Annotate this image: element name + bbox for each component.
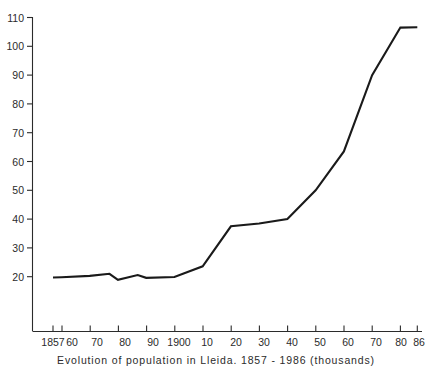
- chart-figure: 110 100 90 80 70 60 50 40 30 20: [0, 0, 430, 381]
- x-tick-label: 60: [66, 336, 78, 348]
- x-tick-label: 40: [286, 336, 298, 348]
- y-tick-label: 50: [12, 184, 24, 196]
- y-tick-label: 30: [12, 242, 24, 254]
- x-tick-label: 1900: [167, 336, 191, 348]
- y-tick-label: 70: [12, 127, 24, 139]
- x-tick-marks: [53, 326, 417, 332]
- y-tick-marks: [27, 18, 33, 277]
- y-tick-label: 40: [12, 213, 24, 225]
- y-tick-label: 100: [6, 40, 24, 52]
- x-tick-label: 1857: [41, 336, 65, 348]
- x-tick-label: 80: [119, 336, 131, 348]
- y-tick-label: 90: [12, 69, 24, 81]
- x-tick-label: 90: [147, 336, 159, 348]
- x-tick-label: 20: [230, 336, 242, 348]
- x-tick-label: 10: [201, 336, 213, 348]
- x-tick-label: 30: [258, 336, 270, 348]
- x-axis-tick-labels: 1857 60 70 80 90 1900 10 20 30 40 50 60 …: [41, 336, 425, 348]
- x-tick-label: 70: [91, 336, 103, 348]
- x-tick-label: 80: [395, 336, 407, 348]
- line-chart: 110 100 90 80 70 60 50 40 30 20: [0, 0, 430, 381]
- x-tick-label: 50: [314, 336, 326, 348]
- data-series-line: [53, 27, 417, 280]
- y-tick-label: 80: [12, 98, 24, 110]
- x-tick-label: 86: [413, 336, 425, 348]
- y-tick-label: 20: [12, 271, 24, 283]
- y-tick-label: 110: [7, 12, 24, 24]
- x-tick-label: 70: [370, 336, 382, 348]
- x-tick-label: 60: [342, 336, 354, 348]
- y-axis-tick-labels: 110 100 90 80 70 60 50 40 30 20: [6, 12, 24, 283]
- y-tick-label: 60: [12, 156, 24, 168]
- chart-caption: Evolution of population in Lleida. 1857 …: [57, 354, 375, 366]
